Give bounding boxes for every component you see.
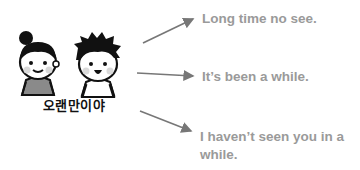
arrow-icon-3 xyxy=(140,111,191,131)
meaning-text-3: I haven’t seen you in a while. xyxy=(200,128,360,164)
arrow-icon-1 xyxy=(143,19,193,43)
arrow-icon-2 xyxy=(137,73,193,76)
meaning-text-1: Long time no see. xyxy=(202,10,317,28)
meaning-text-2: It’s been a while. xyxy=(202,68,309,86)
